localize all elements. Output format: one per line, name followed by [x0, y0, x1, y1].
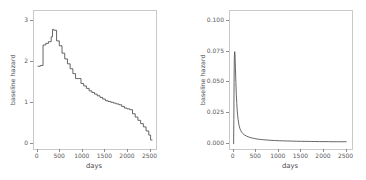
y-tick-mark — [226, 112, 229, 113]
y-tick-mark — [30, 102, 33, 103]
series-line-right — [230, 11, 352, 149]
x-tick-mark — [278, 149, 279, 152]
x-tick-mark — [323, 149, 324, 152]
data-line — [38, 29, 153, 140]
y-tick-mark — [226, 20, 229, 21]
y-tick-label-left-0: 0 — [0, 139, 28, 146]
x-tick-mark — [346, 149, 347, 152]
x-tick-mark — [104, 149, 105, 152]
y-tick-label-left-3: 3 — [0, 16, 28, 23]
y-tick-label-left-1: 1 — [0, 98, 28, 105]
x-tick-mark — [150, 149, 151, 152]
plot-area-left — [33, 10, 157, 150]
data-line — [234, 52, 347, 144]
y-tick-mark — [226, 143, 229, 144]
y-tick-label-right-1: 0.025 — [183, 108, 224, 115]
x-tick-mark — [127, 149, 128, 152]
chart-panel-right: baseline hazard 0.000 0.025 0.050 0.075 … — [183, 0, 366, 180]
x-axis-label-right: days — [229, 162, 351, 170]
y-tick-mark — [30, 61, 33, 62]
x-tick-label-right-5: 2500 — [332, 152, 360, 159]
y-tick-mark — [226, 81, 229, 82]
y-tick-label-left-2: 2 — [0, 57, 28, 64]
x-tick-mark — [233, 149, 234, 152]
y-tick-mark — [226, 51, 229, 52]
x-tick-mark — [37, 149, 38, 152]
y-tick-label-right-2: 0.050 — [183, 77, 224, 84]
y-tick-label-right-3: 0.075 — [183, 47, 224, 54]
y-tick-label-right-0: 0.000 — [183, 139, 224, 146]
chart-panel-left: baseline hazard 0 1 2 3 0 500 1000 1500 … — [0, 0, 183, 180]
y-tick-mark — [30, 143, 33, 144]
y-tick-mark — [30, 20, 33, 21]
figure-baseline-hazard-panels: baseline hazard 0 1 2 3 0 500 1000 1500 … — [0, 0, 366, 180]
x-tick-mark — [255, 149, 256, 152]
x-tick-mark — [59, 149, 60, 152]
series-line-left — [34, 11, 156, 149]
y-tick-label-right-4: 0.100 — [183, 16, 224, 23]
x-axis-label-left: days — [33, 162, 155, 170]
x-tick-mark — [82, 149, 83, 152]
plot-area-right — [229, 10, 353, 150]
x-tick-mark — [300, 149, 301, 152]
x-tick-label-left-5: 2500 — [136, 152, 164, 159]
